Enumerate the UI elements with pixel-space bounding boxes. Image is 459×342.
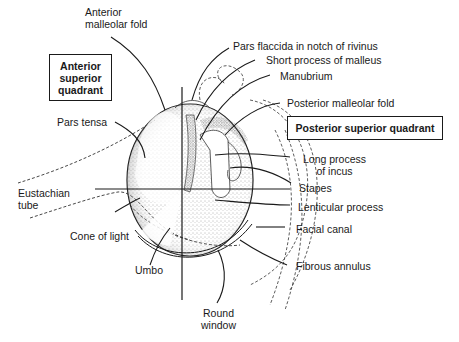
label-line: Anterior: [85, 6, 147, 18]
label-facial-canal: Facial canal: [296, 223, 352, 235]
label-line: Round: [201, 307, 236, 319]
posterior-superior-quadrant-box: Posterior superior quadrant: [287, 116, 443, 140]
label-line: malleolar fold: [85, 18, 147, 30]
label-fibrous-annulus: Fibrous annulus: [296, 260, 371, 272]
box-text: Posterior superior quadrant: [296, 122, 435, 134]
label-pars-flaccida: Pars flaccida in notch of rivinus: [233, 40, 378, 52]
label-manubrium: Manubrium: [280, 70, 333, 82]
anterior-superior-quadrant-box: Anterior superior quadrant: [49, 54, 112, 101]
label-eustachian-tube: Eustachian tube: [18, 187, 70, 211]
label-short-process-of-malleus: Short process of malleus: [266, 54, 382, 66]
box-line-3: quadrant: [58, 84, 103, 96]
label-cone-of-light: Cone of light: [70, 230, 129, 242]
box-line-2: superior: [58, 72, 103, 84]
label-line: Eustachian: [18, 187, 70, 199]
label-pars-tensa: Pars tensa: [57, 116, 107, 128]
label-line: window: [201, 319, 236, 331]
label-lenticular-process: Lenticular process: [298, 201, 383, 213]
label-line: Long process: [303, 153, 366, 165]
label-stapes: Stapes: [299, 182, 332, 194]
label-anterior-malleolar-fold: Anterior malleolar fold: [85, 6, 147, 30]
box-line-1: Anterior: [58, 60, 103, 72]
label-posterior-malleolar-fold: Posterior malleolar fold: [287, 97, 394, 109]
label-line: tube: [18, 199, 70, 211]
tympanic-membrane-diagram: [0, 0, 459, 342]
tympanic-membrane: [127, 101, 253, 258]
label-line: of incus: [303, 165, 366, 177]
label-umbo: Umbo: [135, 264, 163, 276]
label-round-window: Round window: [201, 307, 236, 331]
label-long-process-of-incus: Long process of incus: [303, 153, 366, 177]
